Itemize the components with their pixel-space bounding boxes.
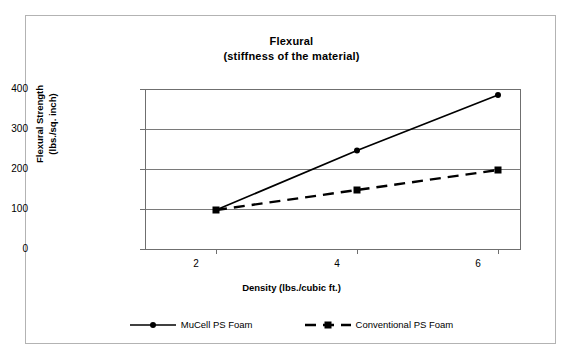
legend-swatch-conventional-icon	[305, 320, 351, 330]
y-axis-title-line1: Flexural Strength	[33, 49, 46, 199]
series-marker-conventional-1	[354, 187, 361, 194]
legend-label-mucell: MuCell PS Foam	[181, 319, 253, 330]
x-tick-mark-6	[498, 249, 499, 254]
y-tick-label-0: 0	[0, 244, 28, 254]
y-tick-label-300: 300	[0, 124, 28, 134]
chart-title: Flexural (stiffness of the material)	[26, 34, 557, 64]
legend-label-conventional: Conventional PS Foam	[356, 319, 454, 330]
chart-title-main: Flexural	[26, 34, 557, 49]
y-axis-title-line2: (lbs./sq. inch)	[46, 49, 59, 199]
y-tick-label-400: 400	[0, 84, 28, 94]
legend-swatch-mucell-icon	[130, 320, 176, 330]
y-axis-title: Flexural Strength (lbs./sq. inch)	[33, 49, 59, 199]
y-tick-label-100: 100	[0, 204, 28, 214]
series-marker-mucell-1	[354, 148, 360, 154]
legend-item-conventional[interactable]: Conventional PS Foam	[305, 319, 454, 330]
series-plot	[146, 90, 522, 251]
chart-subtitle: (stiffness of the material)	[26, 49, 557, 64]
x-axis-title: Density (lbs./cubic ft.)	[26, 282, 557, 293]
legend-item-mucell[interactable]: MuCell PS Foam	[130, 319, 253, 330]
chart-legend: MuCell PS Foam Conventional PS Foam	[26, 319, 557, 330]
x-tick-label-2: 2	[176, 258, 216, 269]
chart-container: Flexural (stiffness of the material) Fle…	[25, 15, 556, 344]
x-tick-label-4: 4	[317, 258, 357, 269]
series-marker-conventional-0	[213, 207, 220, 214]
y-tick-label-200: 200	[0, 164, 28, 174]
x-tick-mark-2	[216, 249, 217, 254]
series-marker-mucell-2	[495, 92, 501, 98]
series-marker-conventional-2	[495, 167, 502, 174]
x-tick-label-6: 6	[458, 258, 498, 269]
x-tick-mark-4	[357, 249, 358, 254]
